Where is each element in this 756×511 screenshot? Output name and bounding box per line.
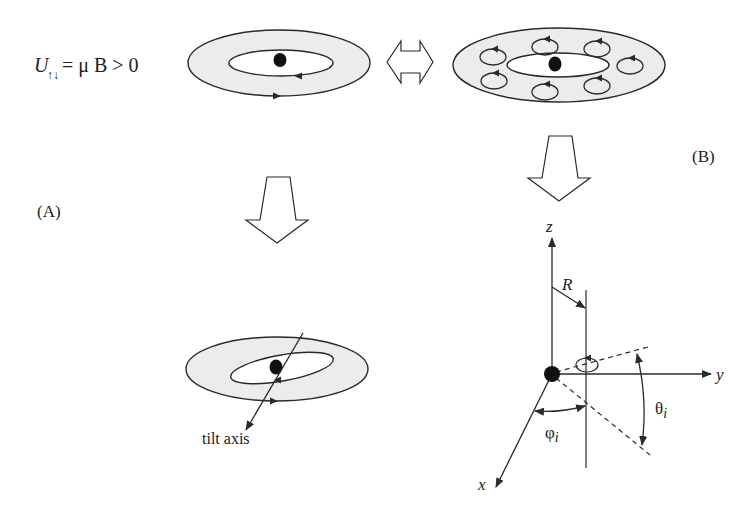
energy-formula: U ↑↓ = μ B > 0 xyxy=(34,54,139,82)
lower-dashed-line xyxy=(556,378,650,455)
central-charge-dot xyxy=(549,57,562,72)
small-vortex-circle-icon xyxy=(576,358,598,372)
top-right-vortex-ring xyxy=(453,28,665,102)
phi-label: φi xyxy=(545,423,559,445)
diagram-canvas: U ↑↓ = μ B > 0 xyxy=(0,0,756,511)
y-axis-label: y xyxy=(714,365,724,384)
z-axis-label: z xyxy=(545,217,553,236)
small-vortex-arrow-icon xyxy=(584,355,591,362)
tilt-axis-label: tilt axis xyxy=(202,430,250,447)
formula-subscript-spin-arrows: ↑↓ xyxy=(47,68,59,82)
panel-label-a: (A) xyxy=(37,202,61,221)
x-axis-label: x xyxy=(477,475,486,494)
radius-label: R xyxy=(561,275,573,294)
top-left-orbit xyxy=(188,30,370,100)
formula-rhs: = μ B > 0 xyxy=(62,54,139,77)
origin-charge-dot xyxy=(544,366,560,382)
diagram-svg: U ↑↓ = μ B > 0 xyxy=(0,0,756,511)
central-charge-dot xyxy=(274,53,287,67)
coordinate-system: z y x R θi φi xyxy=(477,217,724,494)
panel-label-b: (B) xyxy=(692,147,715,166)
down-arrow-a-icon xyxy=(246,177,308,243)
phi-angle-arc xyxy=(535,406,585,411)
theta-label: θi xyxy=(655,399,667,421)
bottom-left-tilted-orbit xyxy=(186,333,368,430)
down-arrow-b-icon xyxy=(528,136,590,201)
equivalence-double-arrow-icon xyxy=(387,41,433,83)
x-axis xyxy=(496,374,552,487)
theta-angle-arc xyxy=(637,354,644,445)
upper-dashed-line xyxy=(556,347,648,372)
